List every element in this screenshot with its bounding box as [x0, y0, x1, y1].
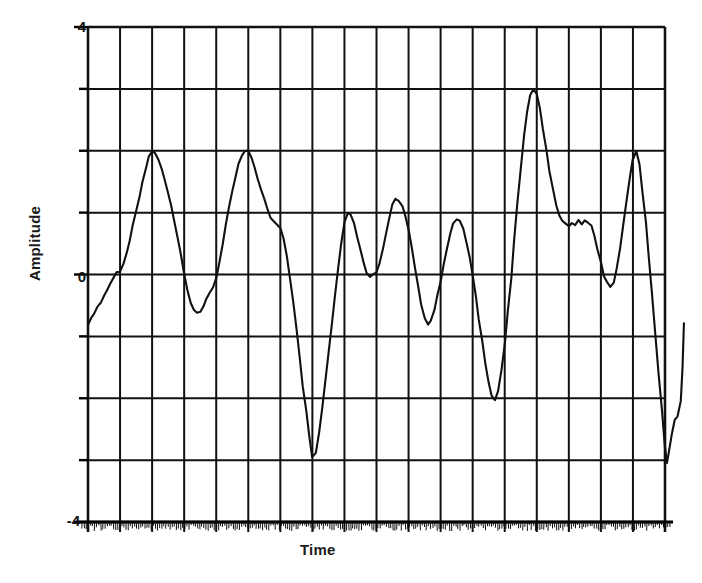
signal-trace: [88, 89, 684, 463]
y-axis-title: Amplitude: [26, 184, 43, 304]
y-tick-label-bottom: -4: [40, 512, 80, 529]
y-tick-label-top: 4: [46, 18, 86, 35]
y-tick-label-zero: 0: [46, 268, 86, 285]
plot-canvas: [0, 0, 702, 583]
vertical-gridlines: [88, 27, 665, 532]
bottom-axis-hatching: [76, 522, 673, 531]
x-axis-title: Time: [300, 541, 460, 558]
chart-figure: Amplitude Time 4 0 -4: [0, 0, 702, 583]
